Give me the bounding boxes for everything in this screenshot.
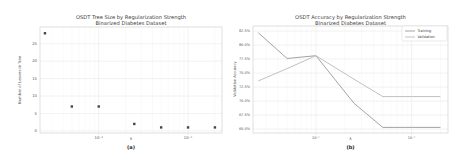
legend-label: Training	[417, 29, 432, 33]
x-tick-label: 10⁻²	[95, 135, 104, 140]
y-axis-label: Validation Accuracy	[233, 60, 237, 96]
chart-subtitle: Binarized Diabetes Dataset	[96, 20, 167, 26]
training-line	[258, 33, 440, 128]
data-point	[160, 126, 162, 128]
x-axis-label: λ	[349, 136, 352, 141]
legend-label: Validation	[418, 35, 435, 39]
x-tick-label: 10⁻¹	[184, 135, 193, 140]
x-tick-label: 10⁻²	[312, 136, 320, 140]
data-point	[133, 123, 135, 125]
plot-spines	[40, 27, 222, 133]
y-tick-label: 77.5%	[239, 57, 251, 61]
y-tick-label: 20	[32, 58, 37, 63]
data-point	[44, 32, 46, 34]
x-tick-label: 10⁻¹	[408, 136, 416, 140]
y-tick-label: 72.5%	[239, 85, 251, 89]
y-tick-label: 10	[32, 93, 37, 98]
y-tick-label: 80.0%	[239, 43, 251, 47]
chart-subtitle: Binarized Diabetes Dataset	[315, 20, 386, 26]
tree-size-chart-panel: 051015202510⁻²10⁻¹ OSDT Tree Size by Reg…	[0, 0, 231, 159]
tree-size-chart: 051015202510⁻²10⁻¹ OSDT Tree Size by Reg…	[0, 0, 231, 159]
validation-line	[258, 56, 440, 97]
two-panel-figure: 051015202510⁻²10⁻¹ OSDT Tree Size by Reg…	[0, 0, 461, 159]
y-tick-label: 65.0%	[239, 127, 251, 131]
y-axis-label: Number of Leaves in Tree	[17, 55, 22, 104]
subfigure-caption: (a)	[127, 144, 135, 150]
data-point	[71, 105, 73, 107]
y-tick-label: 67.5%	[239, 113, 251, 117]
accuracy-chart: 82.5%80.0%77.5%75.0%72.5%70.0%67.5%65.0%…	[230, 0, 461, 159]
y-tick-label: 70.0%	[239, 99, 251, 103]
y-tick-label: 0	[35, 128, 38, 133]
y-tick-label: 75.0%	[239, 71, 251, 75]
accuracy-chart-panel: 82.5%80.0%77.5%75.0%72.5%70.0%67.5%65.0%…	[230, 0, 461, 159]
plot-spines	[253, 26, 448, 133]
data-point	[214, 126, 216, 128]
y-tick-label: 15	[32, 76, 37, 81]
y-tick-label: 5	[35, 111, 38, 116]
plot-layer-b: 82.5%80.0%77.5%75.0%72.5%70.0%67.5%65.0%…	[239, 26, 448, 140]
subfigure-caption: (b)	[346, 144, 354, 150]
x-axis-label: λ	[130, 136, 133, 141]
data-point	[98, 105, 100, 107]
y-tick-label: 82.5%	[239, 29, 251, 33]
data-point	[187, 126, 189, 128]
plot-layer-a: 051015202510⁻²10⁻¹	[32, 27, 222, 140]
y-tick-label: 25	[32, 41, 37, 46]
